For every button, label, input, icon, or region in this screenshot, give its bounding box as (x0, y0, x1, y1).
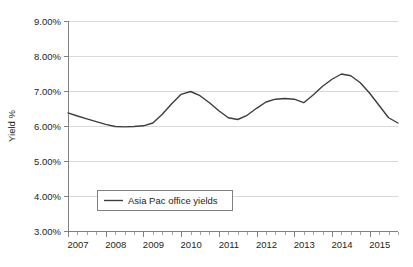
y-tick-label-7: 7.00% (34, 86, 61, 97)
y-axis-tick-labels: 9.00% 8.00% 7.00% 6.00% 5.00% 4.00% 3.00… (34, 16, 61, 237)
x-tick-label-2014: 2014 (331, 239, 352, 250)
y-tick-label-6: 6.00% (34, 121, 61, 132)
x-tick-label-2010: 2010 (181, 239, 202, 250)
y-axis-title: Yield % (6, 110, 17, 142)
chart-container: 9.00% 8.00% 7.00% 6.00% 5.00% 4.00% 3.00… (0, 0, 413, 267)
y-tick-label-4: 4.00% (34, 191, 61, 202)
y-axis-ticks (64, 22, 68, 232)
y-tick-label-9: 9.00% (34, 16, 61, 27)
x-axis-major-ticks (69, 232, 371, 237)
x-tick-label-2007: 2007 (67, 239, 88, 250)
y-tick-label-3: 3.00% (34, 226, 61, 237)
chart-legend[interactable]: Asia Pac office yields (98, 191, 233, 211)
y-tick-label-5: 5.00% (34, 156, 61, 167)
x-tick-label-2013: 2013 (294, 239, 315, 250)
x-tick-label-2009: 2009 (143, 239, 164, 250)
y-tick-label-8: 8.00% (34, 51, 61, 62)
yield-line-chart: 9.00% 8.00% 7.00% 6.00% 5.00% 4.00% 3.00… (0, 0, 413, 267)
x-tick-label-2008: 2008 (105, 239, 126, 250)
x-tick-label-2015: 2015 (369, 239, 390, 250)
legend-label-asia-pac-office-yields: Asia Pac office yields (128, 195, 218, 206)
x-axis-tick-labels: 200720082009201020112012201320142015 (67, 239, 390, 250)
x-tick-label-2012: 2012 (256, 239, 277, 250)
x-tick-label-2011: 2011 (219, 239, 239, 250)
